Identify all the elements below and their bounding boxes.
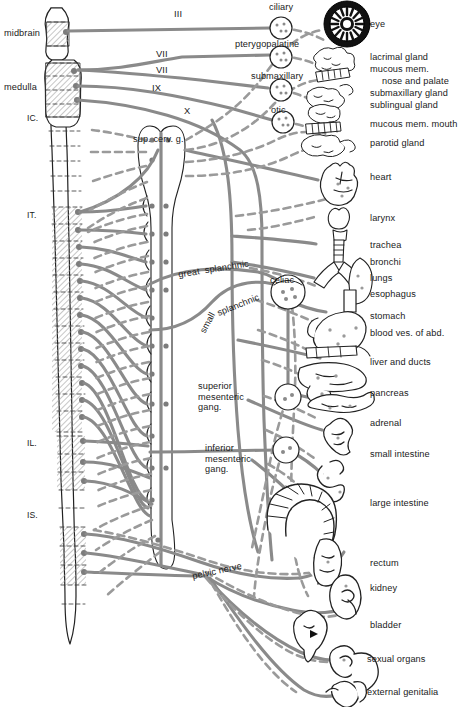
oral-mucosa-organ: [306, 122, 341, 134]
abdominal-vessels-organ: [306, 346, 370, 358]
label-organ-lacrimal-gland: lacrimal gland: [370, 52, 428, 63]
label-organ-nose-and-palate: nose and palate: [382, 76, 449, 87]
label-cn-ix: IX: [152, 83, 161, 94]
label-cn-vii-2: VII: [156, 65, 168, 76]
label-organ-mucous-mem: mucous mem.: [370, 64, 429, 75]
label-organ-larynx: larynx: [370, 213, 395, 224]
label-organ-kidney: kidney: [370, 583, 397, 594]
submaxillary-gland-organ: [307, 84, 353, 109]
label-submaxillary-ganglion: submaxillary: [251, 71, 303, 82]
label-organ-small-intestine: small intestine: [370, 449, 430, 460]
label-organ-bladder: bladder: [370, 620, 401, 631]
label-organ-submaxillary-gland: submaxillary gland: [370, 88, 448, 99]
label-organ-pancreas: pancreas: [370, 388, 409, 399]
label-organ-rectum: rectum: [370, 558, 399, 569]
label-superior-mesenteric-ganglion: superior mesenteric gang.: [198, 381, 244, 413]
label-inferior-mesenteric-ganglion: inferior mesenteric gang.: [205, 443, 251, 475]
label-pterygopalatine-ganglion: pterygopalatine: [235, 39, 299, 50]
label-organ-external-genitalia: external genitalia: [367, 687, 438, 698]
bladder-organ: [294, 610, 328, 662]
label-ciliary-ganglion: ciliary: [269, 2, 293, 13]
eye-organ: [324, 1, 370, 47]
label-organ-sublingual-gland: sublingual gland: [370, 100, 438, 111]
autonomic-nervous-system-diagram: midbrain medulla IC. IT. IL. IS. III VII…: [0, 0, 467, 707]
heart-organ: [320, 162, 357, 205]
trachea-bronchi-lungs-organ: [314, 240, 372, 304]
label-midbrain: midbrain: [4, 28, 40, 39]
label-otic-ganglion: otic: [271, 105, 286, 116]
label-cn-iii: III: [174, 9, 182, 20]
adrenal-organ: [324, 418, 353, 455]
label-organ-adrenal: adrenal: [370, 418, 401, 429]
label-organ-heart: heart: [370, 172, 391, 183]
larynx-organ: [328, 208, 349, 242]
superior-mesenteric-ganglion: [275, 384, 301, 410]
label-organ-parotid-gland: parotid gland: [370, 138, 424, 149]
label-celiac-ganglion: celiac: [270, 275, 294, 286]
label-organ-sexual-organs: sexual organs: [367, 654, 426, 665]
label-organ-bronchi: bronchi: [370, 257, 401, 268]
sublingual-gland-organ: [308, 104, 340, 123]
kidney-organ: [330, 575, 361, 619]
label-organ-mucous-mem-mouth: mucous mem. mouth: [370, 119, 457, 130]
label-organ-trachea: trachea: [370, 240, 401, 251]
ciliary-ganglion: [270, 17, 292, 39]
label-segment-t: IT.: [27, 210, 36, 221]
label-sup-cerv-ganglion: sup. cerv. g.: [133, 134, 184, 145]
label-segment-l: IL.: [27, 438, 37, 449]
label-organ-eye: eye: [370, 19, 385, 30]
label-segment-c: IC.: [27, 113, 38, 124]
label-organ-blood-ves-abd: blood ves. of abd.: [370, 328, 444, 339]
parotid-gland-organ: [301, 135, 355, 157]
label-segment-s: IS.: [27, 510, 38, 521]
label-organ-esophagus: esophagus: [370, 289, 416, 300]
submaxillary-ganglion: [270, 79, 292, 101]
label-medulla: medulla: [4, 82, 37, 93]
external-genitalia-organ: [326, 681, 366, 707]
label-organ-lungs: lungs: [370, 273, 392, 284]
inferior-mesenteric-ganglion: [273, 437, 299, 463]
label-organ-liver-and-ducts: liver and ducts: [370, 357, 431, 368]
label-cn-vii-1: VII: [156, 49, 168, 60]
label-cn-x: X: [184, 106, 190, 117]
label-organ-large-intestine: large intestine: [370, 498, 429, 509]
label-organ-stomach: stomach: [370, 311, 405, 322]
